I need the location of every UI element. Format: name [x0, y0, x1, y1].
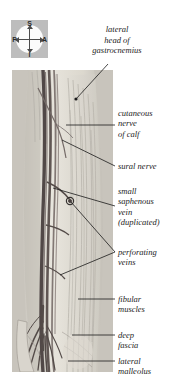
callout-line: small	[118, 186, 174, 196]
callout-line: fibular	[118, 294, 174, 304]
callout-line: of calf	[118, 129, 174, 139]
orientation-compass: S I P A	[11, 20, 48, 58]
heading-line-2: head of	[64, 35, 170, 46]
callout-fibular-muscles: fibular muscles	[118, 294, 174, 315]
callout-small-saphenous-vein: small saphenous vein (duplicated)	[118, 186, 174, 227]
compass-label-posterior: P	[10, 36, 19, 43]
callout-line: muscles	[118, 304, 174, 314]
callout-cutaneous-nerve-of-calf: cutaneous nerve of calf	[118, 108, 174, 139]
callout-line: sural nerve	[118, 161, 174, 171]
compass-label-inferior: I	[25, 51, 34, 58]
callout-line: deep	[118, 330, 174, 340]
callout-line: malleolus	[118, 366, 174, 376]
callout-perforating-veins: perforating veins	[118, 247, 174, 268]
callout-line: cutaneous	[118, 108, 174, 118]
heading-line-1: lateral	[64, 24, 170, 35]
heading-line-3: gastrocnemius	[64, 45, 170, 56]
callout-line: (duplicated)	[118, 217, 174, 227]
compass-label-superior: S	[25, 20, 34, 27]
figure-heading-label: lateral head of gastrocnemius	[64, 24, 170, 56]
callout-line: fascia	[118, 340, 174, 350]
compass-label-anterior: A	[40, 36, 49, 43]
callout-line: saphenous	[118, 196, 174, 206]
callout-line: perforating	[118, 247, 174, 257]
anatomy-figure: S I P A lateral head of gastrocnemius	[0, 0, 174, 383]
callout-sural-nerve: sural nerve	[118, 161, 174, 171]
callout-line: veins	[118, 257, 174, 267]
compass-horizontal-axis	[18, 39, 41, 40]
callout-line: lateral	[118, 356, 174, 366]
callout-deep-fascia: deep fascia	[118, 330, 174, 351]
callout-lateral-malleolus: lateral malleolus	[118, 356, 174, 377]
callout-line: vein	[118, 207, 174, 217]
dissection-photograph	[12, 70, 113, 372]
callout-line: nerve	[118, 118, 174, 128]
